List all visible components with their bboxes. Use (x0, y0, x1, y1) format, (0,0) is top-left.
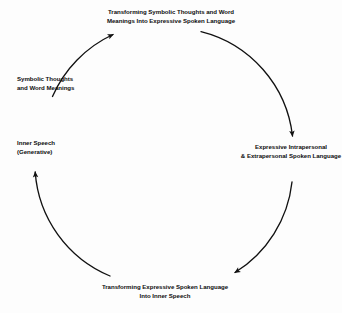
node-label-inner-speech: Inner Speech (Generative) (17, 139, 55, 156)
cycle-diagram-figure: Transforming Symbolic Thoughts and Word … (0, 0, 342, 313)
node-label-line: Symbolic Thoughts (17, 75, 74, 84)
arc-lower-right (235, 182, 292, 273)
node-label-line: (Generative) (17, 148, 55, 157)
node-label-expressive-language: Expressive Intrapersonal & Extrapersonal… (241, 143, 341, 160)
node-label-line: Expressive Intrapersonal (241, 143, 341, 152)
node-label-symbolic-thoughts: Symbolic Thoughts and Word Meanings (17, 75, 74, 92)
node-label-line: and Word Meanings (17, 84, 74, 93)
arc-upper-right (201, 32, 293, 136)
node-label-transform-thoughts: Transforming Symbolic Thoughts and Word … (107, 8, 235, 25)
node-label-line: Transforming Symbolic Thoughts and Word (107, 8, 235, 17)
node-label-line: Into Inner Speech (102, 292, 228, 301)
node-label-line: Transforming Expressive Spoken Language (102, 283, 228, 292)
node-label-line: & Extrapersonal Spoken Language (241, 152, 341, 161)
node-label-line: Inner Speech (17, 139, 55, 148)
arc-lower-left (35, 172, 110, 276)
node-label-line: Meanings Into Expressive Spoken Language (107, 17, 235, 26)
node-label-transform-language: Transforming Expressive Spoken Language … (102, 283, 228, 300)
